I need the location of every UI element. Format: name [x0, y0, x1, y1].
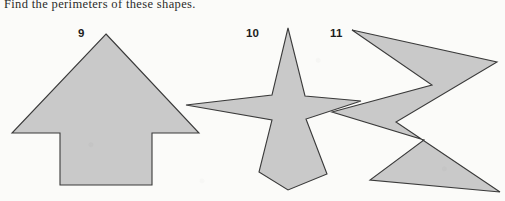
- zigzag-shape: [332, 30, 500, 192]
- page-title: Find the perimeters of these shapes.: [4, 0, 196, 11]
- shape-label-9: 9: [78, 27, 85, 39]
- arrow-shape: [12, 34, 199, 185]
- shape-label-10: 10: [246, 27, 259, 39]
- shape-label-11: 11: [330, 27, 343, 39]
- worksheet-page: Find the perimeters of these shapes. 9 1…: [0, 0, 505, 201]
- four-pointed-star-shape: [186, 28, 361, 190]
